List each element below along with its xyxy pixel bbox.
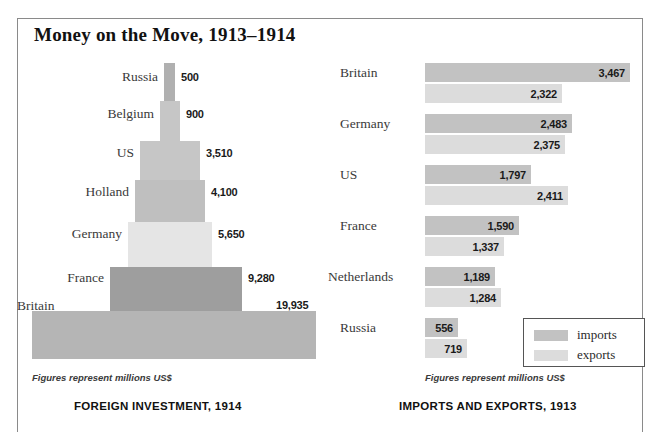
pyramid-bar bbox=[160, 101, 180, 141]
pyramid-label-belgium: Belgium bbox=[44, 106, 154, 122]
bar-label-france: France bbox=[340, 218, 422, 234]
legend-label-imports: imports bbox=[577, 327, 617, 343]
bar-value-exports: 2,411 bbox=[537, 190, 568, 202]
bar-exports-britain: 2,322 bbox=[425, 84, 562, 103]
pyramid-label-france: France bbox=[0, 270, 104, 286]
bar-imports-netherlands: 1,189 bbox=[425, 267, 495, 286]
bar-imports-us: 1,797 bbox=[425, 165, 531, 184]
pyramid-label-germany: Germany bbox=[18, 226, 122, 242]
bar-value-exports: 2,375 bbox=[533, 139, 565, 151]
pyramid-plot-area: Russia 500 Belgium 900 US 3,510 Holland … bbox=[18, 55, 330, 363]
foreign-investment-title: FOREIGN INVESTMENT, 1914 bbox=[74, 400, 242, 412]
bar-group-us: US 1,797 2,411 bbox=[340, 165, 640, 207]
bar-label-britain: Britain bbox=[340, 65, 422, 81]
bar-label-netherlands: Netherlands bbox=[328, 269, 422, 285]
legend-swatch-imports-icon bbox=[534, 330, 568, 341]
bar-group-france: France 1,590 1,337 bbox=[340, 216, 640, 258]
pyramid-bar bbox=[32, 311, 316, 359]
bar-group-germany: Germany 2,483 2,375 bbox=[340, 114, 640, 156]
bar-value-exports: 1,284 bbox=[469, 292, 501, 304]
pyramid-value-france: 9,280 bbox=[248, 272, 275, 284]
bar-exports-us: 2,411 bbox=[425, 186, 568, 205]
pyramid-row-russia: Russia 500 bbox=[18, 63, 330, 101]
bar-imports-britain: 3,467 bbox=[425, 63, 630, 82]
bar-imports-germany: 2,483 bbox=[425, 114, 572, 133]
pyramid-value-us: 3,510 bbox=[206, 147, 233, 159]
pyramid-bar bbox=[164, 63, 175, 101]
legend-swatch-exports-icon bbox=[534, 350, 568, 361]
bar-value-imports: 556 bbox=[435, 322, 458, 334]
bar-label-germany: Germany bbox=[340, 116, 422, 132]
legend-item-imports: imports bbox=[534, 327, 617, 343]
bar-value-imports: 1,189 bbox=[463, 271, 495, 283]
pyramid-row-belgium: Belgium 900 bbox=[18, 101, 330, 141]
pyramid-bar bbox=[110, 267, 242, 311]
legend-item-exports: exports bbox=[534, 347, 615, 363]
bar-value-imports: 1,590 bbox=[487, 220, 519, 232]
pyramid-value-holland: 4,100 bbox=[211, 186, 238, 198]
bar-value-exports: 1,337 bbox=[472, 241, 504, 253]
bar-group-britain: Britain 3,467 2,322 bbox=[340, 63, 640, 105]
legend-label-exports: exports bbox=[577, 347, 615, 363]
pyramid-row-germany: Germany 5,650 bbox=[18, 222, 330, 267]
bar-value-imports: 2,483 bbox=[540, 118, 572, 130]
pyramid-label-britain: Britain bbox=[17, 298, 73, 314]
bar-value-imports: 1,797 bbox=[499, 169, 531, 181]
bar-value-imports: 3,467 bbox=[598, 67, 630, 79]
pyramid-bar bbox=[128, 222, 212, 267]
figure-page: Money on the Move, 1913–1914 Russia 500 … bbox=[0, 0, 657, 432]
foreign-investment-caption: Figures represent millions US$ bbox=[32, 372, 172, 383]
imports-exports-caption: Figures represent millions US$ bbox=[425, 372, 565, 383]
pyramid-row-britain: Britain 19,935 bbox=[18, 311, 330, 359]
pyramid-label-us: US bbox=[34, 145, 134, 161]
bar-value-exports: 2,322 bbox=[530, 88, 562, 100]
bar-imports-russia: 556 bbox=[425, 318, 458, 337]
pyramid-row-us: US 3,510 bbox=[18, 141, 330, 180]
pyramid-value-belgium: 900 bbox=[186, 108, 204, 120]
pyramid-value-germany: 5,650 bbox=[218, 228, 245, 240]
page-title: Money on the Move, 1913–1914 bbox=[34, 24, 296, 46]
bar-imports-france: 1,590 bbox=[425, 216, 519, 235]
pyramid-label-russia: Russia bbox=[54, 69, 158, 85]
bar-label-us: US bbox=[340, 167, 422, 183]
bar-label-russia: Russia bbox=[340, 320, 422, 336]
bar-exports-germany: 2,375 bbox=[425, 135, 565, 154]
imports-exports-title: IMPORTS AND EXPORTS, 1913 bbox=[399, 400, 577, 412]
bar-group-netherlands: Netherlands 1,189 1,284 bbox=[340, 267, 640, 309]
bar-exports-russia: 719 bbox=[425, 339, 467, 358]
bar-value-exports: 719 bbox=[444, 343, 467, 355]
imports-exports-chart: Britain 3,467 2,322 Germany 2,483 2,375 … bbox=[340, 55, 640, 415]
pyramid-value-britain: 19,935 bbox=[276, 299, 308, 311]
bar-exports-netherlands: 1,284 bbox=[425, 288, 501, 307]
pyramid-bar bbox=[135, 180, 205, 222]
pyramid-value-russia: 500 bbox=[181, 71, 199, 83]
pyramid-row-holland: Holland 4,100 bbox=[18, 180, 330, 222]
bar-exports-france: 1,337 bbox=[425, 237, 504, 256]
chart-legend: imports exports bbox=[523, 318, 645, 367]
pyramid-bar bbox=[140, 141, 200, 180]
foreign-investment-chart: Russia 500 Belgium 900 US 3,510 Holland … bbox=[18, 55, 330, 415]
pyramid-label-holland: Holland bbox=[24, 184, 129, 200]
